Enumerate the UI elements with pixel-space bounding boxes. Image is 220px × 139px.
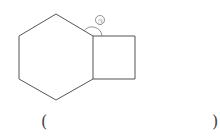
square [93,36,135,79]
angle-arc [84,27,102,36]
hexagon [19,14,93,100]
answer-close-paren: ) [212,112,218,131]
geometry-figure: ㉠ [0,0,220,139]
angle-label: ㉠ [98,18,103,25]
answer-open-paren: ( [41,112,47,131]
